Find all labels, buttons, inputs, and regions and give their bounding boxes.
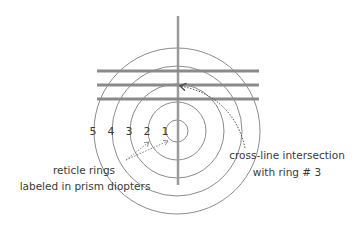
intersection-arrow xyxy=(180,86,245,148)
annotation-cross-line-intersection: cross-line intersection xyxy=(229,149,345,161)
ring-labels: 5 4 3 2 1 xyxy=(90,125,169,138)
left-annotation: reticle rings labeled in prism diopters xyxy=(20,164,151,192)
annotation-with-ring-3: with ring # 3 xyxy=(253,166,321,178)
reticle-diagram: 5 4 3 2 1 reticle rings labeled in prism… xyxy=(0,0,358,225)
annotation-reticle-rings: reticle rings xyxy=(53,164,115,176)
ring-label-1: 1 xyxy=(162,125,169,138)
ring-label-5: 5 xyxy=(90,125,97,138)
ring-label-2: 2 xyxy=(144,125,151,138)
annotation-labeled-prism-diopters: labeled in prism diopters xyxy=(20,180,151,192)
ring-label-4: 4 xyxy=(108,125,115,138)
ring-label-3: 3 xyxy=(126,125,133,138)
right-annotation: cross-line intersection with ring # 3 xyxy=(229,149,345,178)
